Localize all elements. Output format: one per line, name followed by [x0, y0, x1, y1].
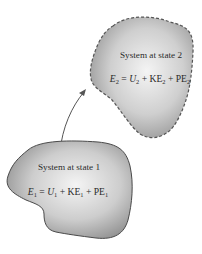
system-state-2: System at state 2 E2 = U2 + KE2 + PE2 — [90, 17, 193, 138]
state-1-title: System at state 1 — [38, 162, 100, 172]
state-1-equation: E1 = U1 + KE1 + PE1 — [27, 186, 108, 198]
system-state-1: System at state 1 E1 = U1 + KE1 + PE1 — [7, 141, 132, 238]
state-2-equation: E2 = U2 + KE2 + PE2 — [109, 73, 190, 85]
arrow-head-icon — [79, 89, 86, 96]
state-change-diagram: System at state 2 E2 = U2 + KE2 + PE2 Sy… — [0, 0, 202, 254]
state-2-title: System at state 2 — [120, 50, 182, 60]
